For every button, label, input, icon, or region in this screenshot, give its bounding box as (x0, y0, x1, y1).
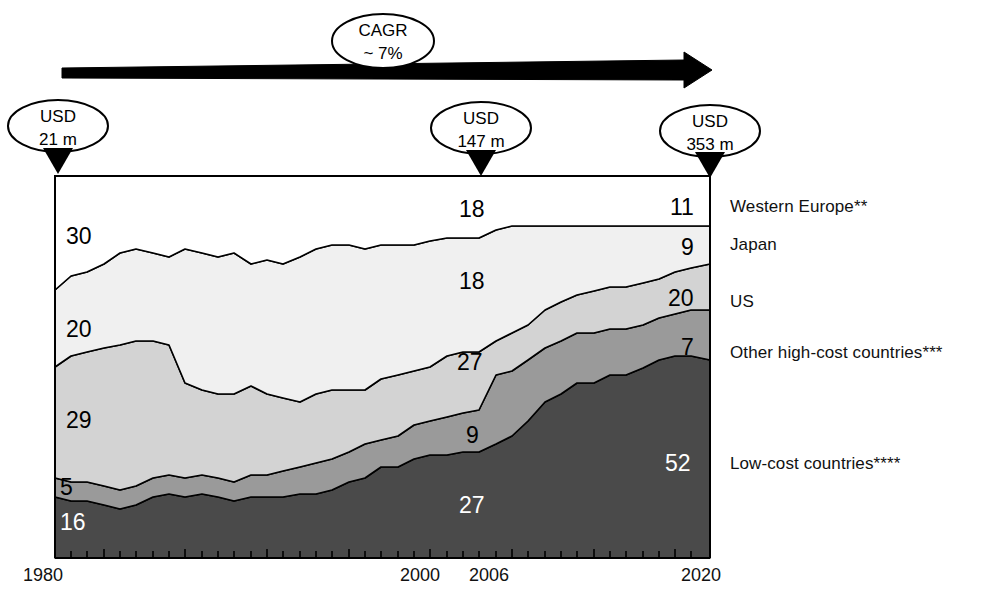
stacked-area-chart (0, 0, 999, 608)
x-axis-label-2006: 2006 (469, 566, 509, 584)
value-label-2020-low-cost: 52 (665, 452, 691, 475)
legend-item-other-high-cost: Other high-cost countries*** (730, 344, 943, 361)
value-label-2020-us: 20 (668, 287, 694, 310)
usd-callout-2020-line2: 353 m (660, 136, 760, 153)
usd-callout-2020-line1: USD (660, 113, 760, 130)
value-label-2006-us: 27 (457, 351, 483, 374)
legend-item-japan: Japan (730, 236, 777, 253)
value-label-2020-japan: 9 (681, 236, 694, 259)
value-label-1980-low-cost: 16 (60, 511, 86, 534)
usd-callout-2006-line2: 147 m (431, 133, 531, 150)
value-label-2020-western-europe: 11 (670, 196, 694, 219)
chart-canvas: CAGR ~ 7% USD 21 m USD 147 m USD 353 m 3… (0, 0, 999, 608)
value-label-2006-other-high-cost: 9 (466, 424, 479, 447)
usd-callout-2006-line1: USD (431, 110, 531, 127)
usd-callout-1980-line2: 21 m (8, 131, 108, 148)
legend-item-western-europe: Western Europe** (730, 198, 867, 215)
value-label-1980-other-high-cost: 5 (60, 476, 73, 499)
value-label-1980-western-europe: 30 (66, 225, 92, 248)
value-label-2006-japan: 18 (459, 270, 485, 293)
value-label-1980-japan: 20 (66, 318, 92, 341)
legend-item-us: US (730, 293, 754, 310)
usd-callout-1980-line1: USD (8, 108, 108, 125)
value-label-2020-other-high-cost: 7 (681, 336, 694, 359)
cagr-label-line1: CAGR (333, 22, 433, 39)
value-label-2006-low-cost: 27 (459, 494, 485, 517)
value-label-1980-us: 29 (66, 409, 92, 432)
legend-item-low-cost: Low-cost countries**** (730, 455, 900, 472)
plot-area (55, 176, 710, 558)
x-axis-label-2000: 2000 (400, 566, 440, 584)
value-label-2006-western-europe: 18 (459, 198, 485, 221)
x-axis-label-1980: 1980 (23, 566, 63, 584)
x-axis-label-2020: 2020 (681, 566, 721, 584)
cagr-label-line2: ~ 7% (333, 45, 433, 62)
